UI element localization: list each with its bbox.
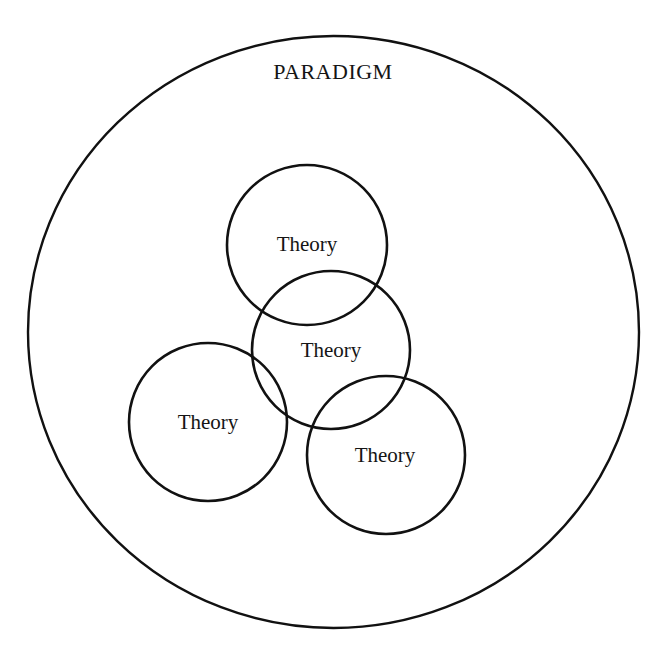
paradigm-label: PARADIGM [273, 61, 392, 83]
paradigm-diagram [0, 0, 668, 655]
theory-label-top: Theory [277, 234, 338, 255]
theory-label-left: Theory [178, 412, 239, 433]
theory-label-center: Theory [301, 340, 362, 361]
paradigm-circle [28, 36, 639, 628]
theory-label-right: Theory [355, 445, 416, 466]
